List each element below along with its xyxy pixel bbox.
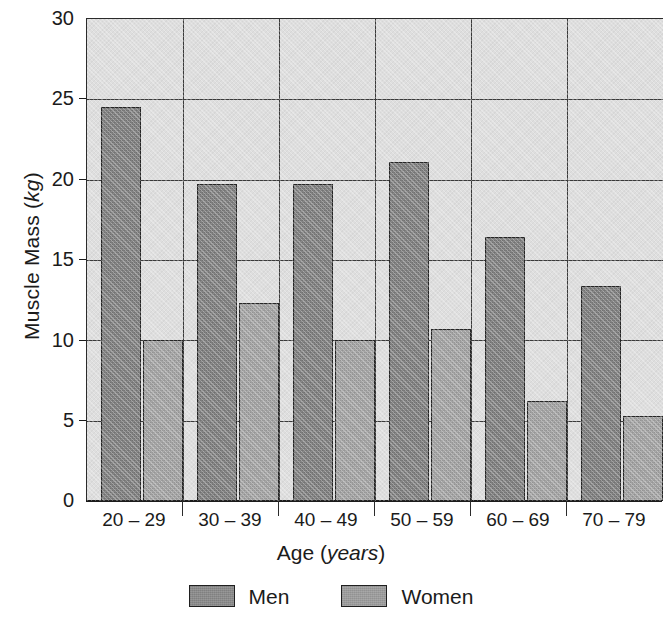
bar-men-30-39 [197, 184, 237, 501]
bar-women-70-79 [623, 416, 663, 501]
y-tick-label-20: 20 [34, 169, 74, 189]
x-axis-title: Age (years) [0, 541, 662, 565]
y-tick-mark-25 [79, 98, 86, 99]
bar-men-20-29 [101, 107, 141, 501]
bar-men-60-69 [485, 237, 525, 501]
x-tick-label-30-39: 30 – 39 [175, 508, 285, 532]
bar-women-40-49 [335, 340, 375, 501]
y-tick-mark-10 [79, 340, 86, 341]
y-tick-label-10: 10 [34, 330, 74, 350]
y-tick-mark-5 [79, 420, 86, 421]
x-tick-label-40-49: 40 – 49 [271, 508, 381, 532]
x-tick-label-70-79: 70 – 79 [559, 508, 667, 532]
bar-women-30-39 [239, 303, 279, 501]
x-tick-label-20-29: 20 – 29 [79, 508, 189, 532]
legend: Men Women [0, 585, 662, 607]
y-axis-title-text: Muscle Mass ( [20, 202, 43, 340]
y-tick-label-15: 15 [34, 249, 74, 269]
bar-men-70-79 [581, 286, 621, 501]
x-axis-title-close: ) [378, 541, 385, 564]
gridline-x-1 [183, 19, 184, 501]
legend-swatch-women [341, 585, 387, 607]
bar-men-50-59 [389, 162, 429, 501]
y-tick-mark-15 [79, 259, 86, 260]
bar-women-20-29 [143, 340, 183, 501]
plot-area [86, 18, 663, 501]
gridline-x-5 [567, 19, 568, 501]
y-tick-label-25: 25 [34, 88, 74, 108]
x-tick-label-50-59: 50 – 59 [367, 508, 477, 532]
bar-women-60-69 [527, 401, 567, 501]
gridline-x-2 [279, 19, 280, 501]
legend-swatch-men [189, 585, 235, 607]
gridline-x-3 [375, 19, 376, 501]
y-tick-label-5: 5 [34, 410, 74, 430]
x-axis-title-unit: years [327, 541, 378, 564]
legend-entry-men: Men [189, 585, 290, 607]
bar-men-40-49 [293, 184, 333, 501]
y-tick-mark-20 [79, 179, 86, 180]
bar-women-50-59 [431, 329, 471, 501]
legend-label-men: Men [249, 586, 290, 607]
x-tick-label-60-69: 60 – 69 [463, 508, 573, 532]
x-axis-title-text: Age ( [277, 541, 327, 564]
y-tick-label-0: 0 [34, 490, 74, 510]
y-tick-label-30: 30 [34, 8, 74, 28]
legend-entry-women: Women [341, 585, 473, 607]
legend-label-women: Women [401, 586, 473, 607]
gridline-x-4 [471, 19, 472, 501]
